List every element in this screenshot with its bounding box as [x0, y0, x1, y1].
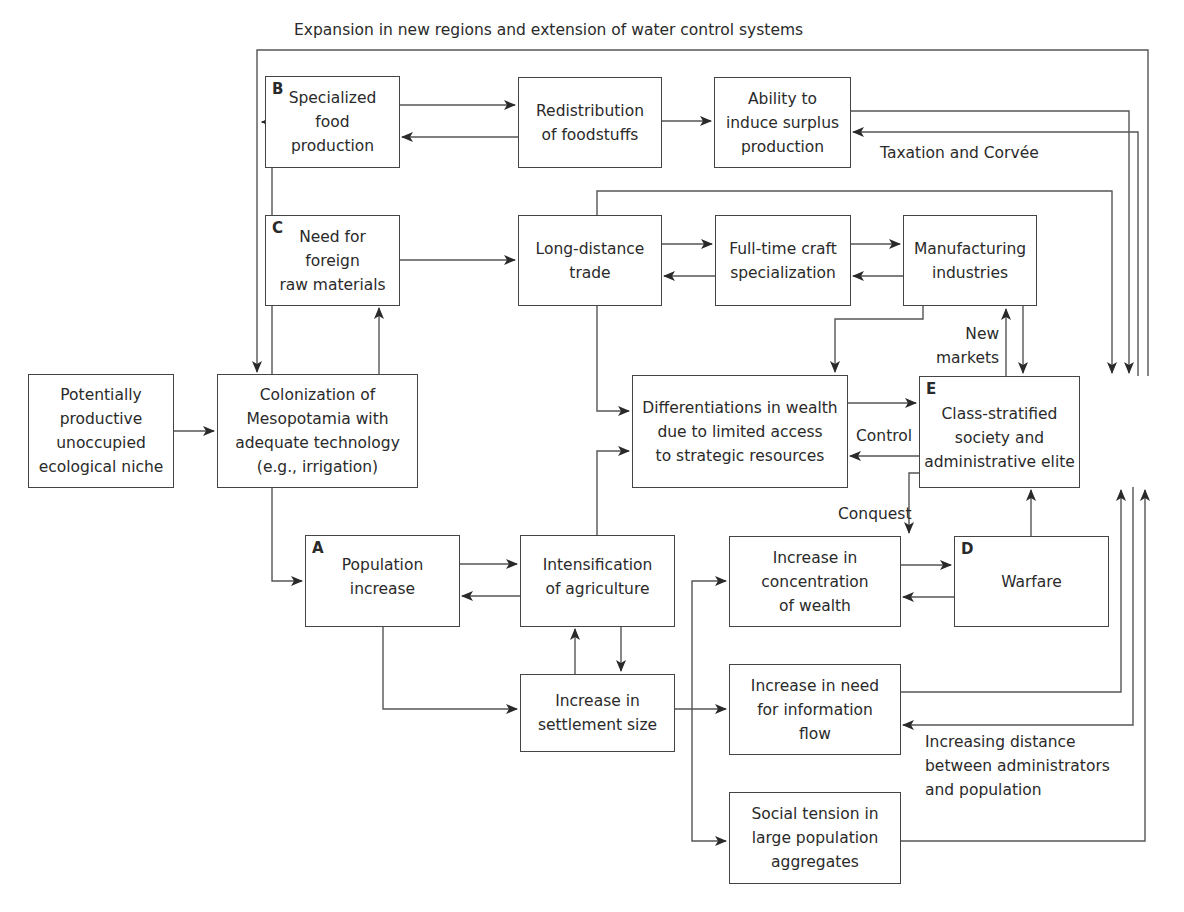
edge-label-increasing-distance: Increasing distance between administrato…	[925, 730, 1110, 802]
node-tag: A	[312, 540, 324, 556]
edge-label-taxation: Taxation and Corvée	[880, 141, 1039, 165]
node-text: Social tension in large population aggre…	[751, 802, 878, 874]
edge-label-new-markets: New markets	[936, 322, 999, 370]
node-craft-specialization: Full-time craft specialization	[715, 215, 851, 306]
node-text: Manufacturing industries	[914, 237, 1026, 285]
node-wealth-differentiation: Differentiations in wealth due to limite…	[632, 375, 848, 488]
node-text: Colonization of Mesopotamia with adequat…	[235, 383, 400, 479]
flowchart-canvas: Potentially productive unoccupied ecolog…	[0, 0, 1184, 912]
node-social-tension: Social tension in large population aggre…	[729, 792, 901, 884]
edge-label-expansion: Expansion in new regions and extension o…	[294, 18, 803, 42]
node-text: Intensification of agriculture	[543, 553, 653, 609]
node-text: Population increase	[342, 553, 423, 609]
node-tag: E	[926, 381, 936, 397]
node-surplus-production: Ability to induce surplus production	[714, 77, 851, 168]
node-text: Need for foreign raw materials	[279, 225, 385, 297]
node-specialized-food-production: B Specialized food production	[265, 76, 400, 168]
node-intensification-agriculture: Intensification of agriculture	[520, 535, 675, 627]
node-tag: D	[961, 541, 973, 557]
node-text: Increase in need for information flow	[751, 674, 879, 746]
node-tag: C	[272, 220, 283, 236]
node-redistribution: Redistribution of foodstuffs	[518, 77, 662, 168]
edge-label-conquest: Conquest	[838, 502, 911, 526]
node-text: Full-time craft specialization	[729, 237, 837, 285]
node-colonization: Colonization of Mesopotamia with adequat…	[217, 374, 418, 488]
node-warfare: D Warfare	[954, 536, 1109, 627]
node-administrative-elite: E Class-stratified society and administr…	[919, 376, 1080, 488]
node-text: Differentiations in wealth due to limite…	[642, 396, 837, 468]
node-population-increase: A Population increase	[305, 535, 460, 627]
node-text: Increase in settlement size	[538, 689, 657, 737]
node-text: Ability to induce surplus production	[726, 87, 839, 159]
node-ecological-niche: Potentially productive unoccupied ecolog…	[28, 374, 174, 488]
node-foreign-raw-materials: C Need for foreign raw materials	[265, 215, 400, 306]
node-tag: B	[272, 81, 283, 97]
node-text: Specialized food production	[289, 86, 377, 158]
node-text: Class-stratified society and administrat…	[924, 390, 1075, 474]
node-wealth-concentration: Increase in concentration of wealth	[729, 536, 901, 627]
node-information-flow: Increase in need for information flow	[729, 664, 901, 755]
node-text: Warfare	[1001, 570, 1062, 594]
node-text: Increase in concentration of wealth	[761, 546, 868, 618]
node-text: Long-distance trade	[536, 237, 645, 285]
node-text: Redistribution of foodstuffs	[536, 99, 644, 147]
node-manufacturing-industries: Manufacturing industries	[903, 215, 1037, 306]
node-settlement-size: Increase in settlement size	[520, 674, 675, 752]
node-long-distance-trade: Long-distance trade	[518, 215, 662, 306]
node-text: Potentially productive unoccupied ecolog…	[39, 383, 164, 479]
edge-label-control: Control	[856, 424, 912, 448]
